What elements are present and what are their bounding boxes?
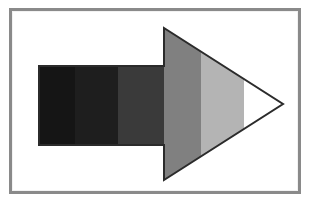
arrow-svg (13, 12, 297, 190)
arrow-artwork (13, 12, 297, 190)
screenshot-canvas: Grayscale Gradient Arrow A large block a… (0, 0, 310, 202)
